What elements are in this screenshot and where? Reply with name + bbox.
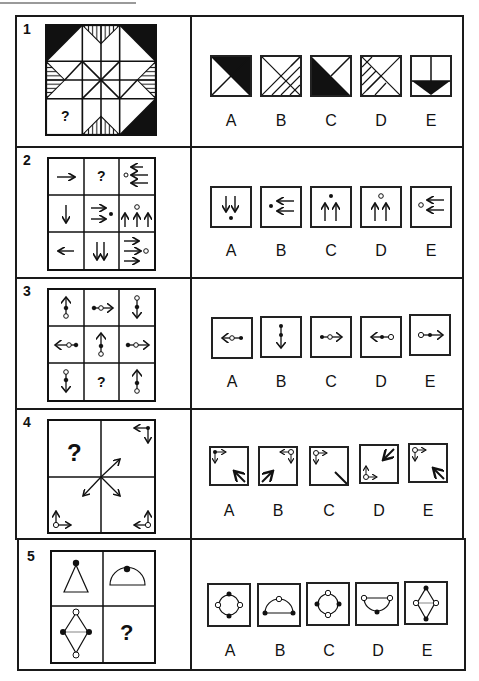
question-3-matrix: ? xyxy=(47,288,156,402)
question-4-row: 4 ? A B xyxy=(15,408,464,540)
option-label: B xyxy=(266,242,296,260)
option-label: B xyxy=(265,642,295,660)
column-divider xyxy=(190,540,192,669)
option-label: D xyxy=(366,112,396,130)
option-1e[interactable] xyxy=(410,55,452,97)
question-number: 4 xyxy=(23,414,31,430)
option-4b[interactable] xyxy=(258,446,298,486)
question-number: 3 xyxy=(23,283,31,299)
option-3e[interactable] xyxy=(409,314,451,356)
question-3-row: 3 xyxy=(15,277,464,410)
column-divider xyxy=(190,279,192,408)
question-2-row: 2 ? A xyxy=(15,146,464,279)
option-label: A xyxy=(216,242,246,260)
option-4d[interactable] xyxy=(359,444,399,484)
question-5-row: 5 ? A B xyxy=(17,538,466,671)
option-label: D xyxy=(364,502,394,520)
option-3a[interactable] xyxy=(211,317,253,359)
option-label: D xyxy=(363,642,393,660)
option-label: E xyxy=(415,373,445,391)
option-2e[interactable] xyxy=(410,186,452,228)
question-number: 1 xyxy=(23,21,31,37)
missing-cell-mark: ? xyxy=(61,108,70,124)
option-1d[interactable] xyxy=(360,55,402,97)
option-label: B xyxy=(263,502,293,520)
question-5-matrix: ? xyxy=(50,550,156,664)
column-divider xyxy=(190,17,192,146)
option-label: A xyxy=(217,373,247,391)
option-2a[interactable] xyxy=(210,186,252,228)
option-4c[interactable] xyxy=(309,446,349,486)
option-5a[interactable] xyxy=(207,583,251,627)
option-label: A xyxy=(214,502,244,520)
question-2-matrix: ? xyxy=(47,157,156,271)
option-label: C xyxy=(316,373,346,391)
missing-cell-mark: ? xyxy=(67,439,82,467)
option-2c[interactable] xyxy=(310,186,352,228)
option-label: B xyxy=(266,373,296,391)
question-4-matrix: ? xyxy=(47,419,156,534)
question-1-row: 1 xyxy=(15,15,464,148)
option-1b[interactable] xyxy=(260,55,302,97)
option-5b[interactable] xyxy=(257,583,301,627)
option-3d[interactable] xyxy=(360,316,402,358)
option-label: C xyxy=(314,642,344,660)
option-5d[interactable] xyxy=(355,582,399,626)
option-label: E xyxy=(412,642,442,660)
missing-cell-mark: ? xyxy=(97,374,106,390)
option-label: D xyxy=(366,242,396,260)
option-2b[interactable] xyxy=(260,186,302,228)
option-2d[interactable] xyxy=(360,186,402,228)
option-label: D xyxy=(366,373,396,391)
option-5c[interactable] xyxy=(306,582,350,626)
top-rule xyxy=(0,2,136,4)
question-number: 2 xyxy=(23,152,31,168)
option-3b[interactable] xyxy=(260,316,302,358)
option-label: E xyxy=(416,112,446,130)
question-1-matrix: ? xyxy=(45,23,157,137)
option-label: B xyxy=(266,112,296,130)
option-label: E xyxy=(413,502,443,520)
option-4e[interactable] xyxy=(408,443,448,483)
question-number: 5 xyxy=(27,548,35,564)
option-1c[interactable] xyxy=(310,55,352,97)
option-4a[interactable] xyxy=(209,446,249,486)
option-label: E xyxy=(416,242,446,260)
option-5e[interactable] xyxy=(404,581,448,625)
option-label: A xyxy=(215,642,245,660)
option-label: A xyxy=(216,112,246,130)
option-label: C xyxy=(316,112,346,130)
option-1a[interactable] xyxy=(210,55,252,97)
option-label: C xyxy=(314,502,344,520)
option-label: C xyxy=(316,242,346,260)
missing-cell-mark: ? xyxy=(120,620,133,646)
column-divider xyxy=(190,410,192,538)
option-3c[interactable] xyxy=(310,316,352,358)
column-divider xyxy=(190,148,192,277)
missing-cell-mark: ? xyxy=(97,168,106,184)
